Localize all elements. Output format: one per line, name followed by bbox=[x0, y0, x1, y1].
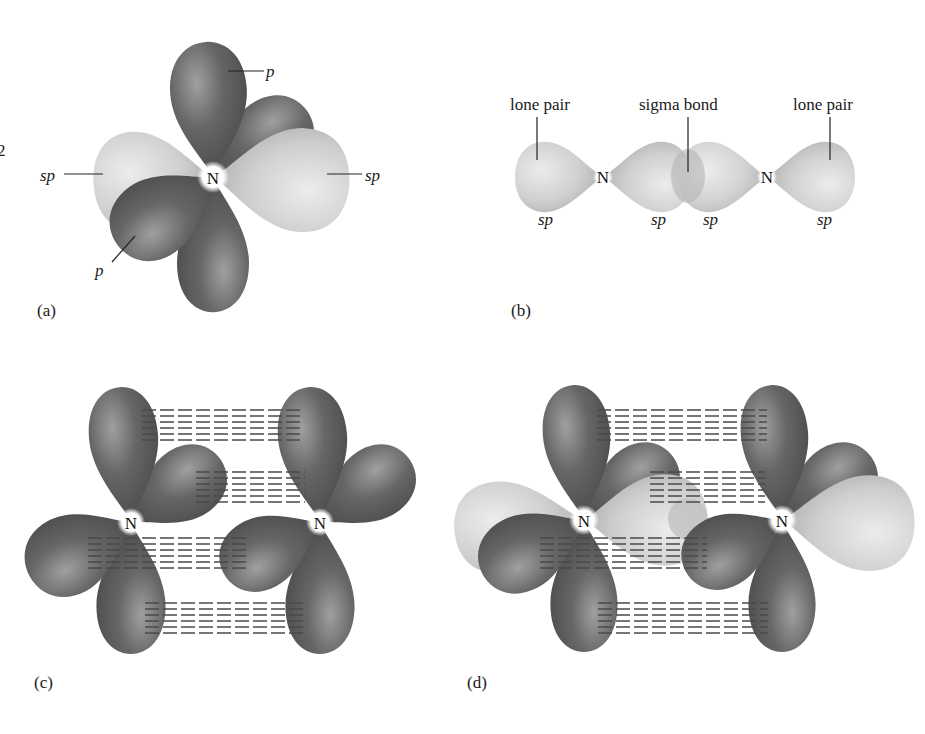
sp-lone-pair-left bbox=[515, 142, 603, 212]
label-sp-3: sp bbox=[703, 210, 718, 229]
panel-caption-c: (c) bbox=[34, 673, 53, 692]
atom-label-n-right: N bbox=[776, 512, 788, 531]
label-p-front: p bbox=[94, 261, 104, 280]
panel-caption-b: (b) bbox=[511, 301, 531, 320]
panel-d: N N bbox=[451, 382, 917, 692]
atom-label-n-left: N bbox=[125, 514, 137, 533]
label-sp-1: sp bbox=[538, 210, 553, 229]
panel-c: N N (c bbox=[11, 384, 430, 692]
atom-label-n: N bbox=[207, 169, 219, 188]
orbital-figure: 2 N p sp sp p (a) bbox=[0, 0, 925, 734]
label-p-top: p bbox=[265, 62, 275, 81]
label-sp-left: sp bbox=[40, 166, 55, 185]
panel-caption-a: (a) bbox=[37, 301, 56, 320]
label-sp-right: sp bbox=[365, 166, 380, 185]
label-lone-pair-right: lone pair bbox=[793, 95, 853, 114]
sp-lone-pair-right bbox=[767, 142, 855, 212]
label-sigma-bond: sigma bond bbox=[639, 95, 718, 114]
panel-caption-d: (d) bbox=[467, 673, 487, 692]
panel-a: N p sp sp p (a) bbox=[37, 40, 380, 320]
label-sp-2: sp bbox=[651, 210, 666, 229]
atom-label-n-left: N bbox=[578, 512, 590, 531]
stray-mark: 2 bbox=[0, 141, 6, 160]
atom-label-n-left: N bbox=[597, 168, 609, 187]
atom-label-n-right: N bbox=[314, 514, 326, 533]
pi-overlap-bottom bbox=[598, 603, 768, 633]
atom-label-n-right: N bbox=[761, 168, 773, 187]
label-lone-pair-left: lone pair bbox=[510, 95, 570, 114]
panel-b: N N lone pair sigma bond lone pair sp sp… bbox=[510, 95, 855, 320]
pi-overlap-bottom bbox=[145, 603, 304, 633]
label-sp-4: sp bbox=[817, 210, 832, 229]
